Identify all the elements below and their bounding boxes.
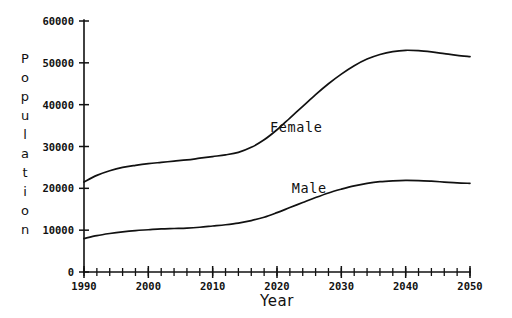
y-tick-label: 30000	[42, 141, 74, 153]
x-tick-label: 2040	[393, 280, 418, 292]
line-chart: 0100002000030000400005000060000 19902000…	[0, 0, 512, 318]
series-line-male	[84, 180, 470, 238]
series-line-female	[84, 50, 470, 182]
y-tick-label: 50000	[42, 57, 74, 69]
data-series	[84, 50, 470, 238]
x-tick-label: 2020	[264, 280, 289, 292]
series-annotation-male: Male	[292, 180, 327, 196]
y-tick-label: 0	[68, 266, 74, 278]
series-annotation-female: Female	[270, 119, 322, 135]
x-axis-tick-labels: 1990200020102020203020402050	[71, 280, 482, 292]
y-axis-tick-labels: 0100002000030000400005000060000	[42, 15, 74, 278]
x-tick-label: 1990	[71, 280, 96, 292]
y-tick-label: 10000	[42, 224, 74, 236]
x-tick-label: 2000	[136, 280, 161, 292]
x-tick-label: 2050	[457, 280, 482, 292]
y-tick-label: 20000	[42, 182, 74, 194]
x-tick-label: 2030	[329, 280, 354, 292]
series-annotations: FemaleMale	[270, 119, 327, 196]
chart-page: P o p u l a t i o n 01000020000300004000…	[0, 0, 512, 318]
x-tick-label: 2010	[200, 280, 225, 292]
y-tick-label: 60000	[42, 15, 74, 27]
y-tick-label: 40000	[42, 99, 74, 111]
axes	[84, 20, 470, 272]
x-axis-title: Year	[259, 292, 294, 310]
